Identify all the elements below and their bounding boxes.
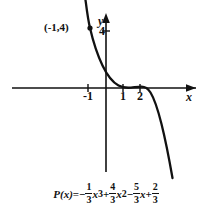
- term-3-fraction: 53: [133, 182, 140, 205]
- term-3-numerator: 5: [133, 182, 140, 193]
- polynomial-graph-figure: (-1,4) y x 4 -1 1 2 P(x)=−13x3+43x2−53x+…: [0, 0, 212, 220]
- term-4-numerator: 2: [152, 182, 159, 193]
- term-4-fraction: 23: [152, 182, 159, 205]
- equation-caption: P(x)=−13x3+43x2−53x+23: [0, 182, 212, 205]
- term-4-denominator: 3: [152, 193, 159, 205]
- x-tick-label-2: 2: [137, 90, 143, 102]
- point-marker-neg1-4: [87, 25, 92, 30]
- y-axis-arrow-icon: [102, 13, 110, 23]
- x-tick-label-neg1: -1: [83, 90, 93, 102]
- equation-lhs: P(x): [53, 188, 73, 200]
- equation-row: P(x)=−13x3+43x2−53x+23: [53, 182, 158, 205]
- term-3-denominator: 3: [133, 193, 140, 205]
- point-label-neg1-4: (-1,4): [44, 22, 69, 33]
- x-tick-label-1: 1: [120, 90, 126, 102]
- y-tick-label-4: 4: [99, 25, 105, 37]
- x-axis-label: x: [186, 91, 192, 103]
